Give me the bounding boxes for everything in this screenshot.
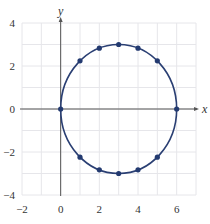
x-tick-label: 4 xyxy=(135,203,141,215)
x-tick-label: 2 xyxy=(97,203,103,215)
tick-labels: −20246−4−2024 xyxy=(3,17,180,215)
data-point xyxy=(97,167,102,172)
data-point xyxy=(116,171,121,176)
y-tick-label: −2 xyxy=(3,146,15,158)
data-point xyxy=(135,167,140,172)
y-tick-label: 0 xyxy=(10,103,16,115)
data-point xyxy=(97,46,102,51)
y-tick-label: −4 xyxy=(3,189,15,201)
y-axis-label: y xyxy=(57,4,64,18)
axes xyxy=(20,17,199,196)
x-tick-label: −2 xyxy=(16,203,28,215)
data-point xyxy=(116,42,121,47)
data-point xyxy=(77,58,82,63)
data-point xyxy=(174,106,179,111)
data-point xyxy=(58,106,63,111)
data-point xyxy=(77,155,82,160)
x-tick-label: 6 xyxy=(174,203,180,215)
x-tick-label: 0 xyxy=(58,203,64,215)
data-point xyxy=(155,58,160,63)
data-point xyxy=(135,46,140,51)
y-tick-label: 2 xyxy=(10,60,16,72)
x-axis-label: x xyxy=(201,102,208,116)
y-tick-label: 4 xyxy=(10,17,16,29)
chart: −20246−4−2024 x y xyxy=(0,0,210,224)
data-point xyxy=(155,155,160,160)
